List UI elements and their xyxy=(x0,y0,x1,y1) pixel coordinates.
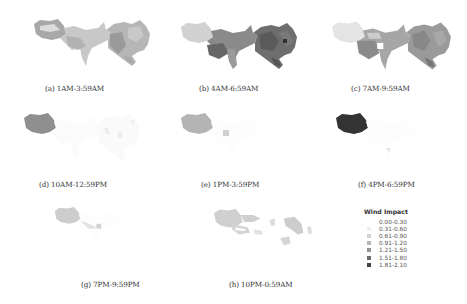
legend-label: 1.21-1.50 xyxy=(379,247,407,253)
caption-h: (h) 10PM-0:59AM xyxy=(229,280,292,289)
caption-g: (g) 7PM-9:59PM xyxy=(81,280,140,289)
caption-c: (c) 7AM-9:59AM xyxy=(351,84,410,93)
map-f xyxy=(330,110,455,166)
legend-item: 1.81-2.10 xyxy=(358,261,458,268)
caption-d: (d) 10AM-12:59PM xyxy=(39,180,107,189)
panel-a: (a) 1AM-3:59AM xyxy=(0,0,155,100)
caption-e: (e) 1PM-3:59PM xyxy=(201,180,259,189)
legend-label: 0.61-0.90 xyxy=(379,233,407,239)
panel-h: (h) 10PM-0:59AM xyxy=(170,200,350,304)
panel-f: (f) 4PM-6:59PM xyxy=(310,100,467,200)
legend-item: 0.00-0.30 xyxy=(358,218,458,225)
legend-item: 0.31-0.60 xyxy=(358,225,458,232)
caption-a: (a) 1AM-3:59AM xyxy=(45,84,104,93)
legend-swatch xyxy=(367,234,371,238)
legend-label: 1.51-1.80 xyxy=(379,255,407,261)
map-a xyxy=(28,16,153,72)
legend-label: 0.00-0.30 xyxy=(379,219,407,225)
legend-swatch xyxy=(367,241,371,245)
panel-d: (d) 10AM-12:59PM xyxy=(0,100,155,200)
map-e xyxy=(175,110,300,166)
legend-item: 0.61-0.90 xyxy=(358,232,458,239)
map-h xyxy=(202,206,327,256)
map-b xyxy=(175,16,300,78)
panel-c: (c) 7AM-9:59AM xyxy=(310,0,467,100)
panel-e: (e) 1PM-3:59PM xyxy=(155,100,310,200)
legend-swatch xyxy=(367,248,371,252)
caption-b: (b) 4AM-6:59AM xyxy=(199,84,258,93)
legend-label: 1.81-2.10 xyxy=(379,262,407,268)
legend-label: 0.91-1.20 xyxy=(379,240,407,246)
map-g xyxy=(50,204,150,250)
caption-f: (f) 4PM-6:59PM xyxy=(358,180,415,189)
map-c xyxy=(326,16,454,78)
legend-swatch xyxy=(367,263,371,267)
legend-swatch xyxy=(367,220,371,224)
legend-swatch xyxy=(367,227,371,231)
legend-item: 0.91-1.20 xyxy=(358,240,458,247)
panel-g: (g) 7PM-9:59PM xyxy=(0,200,180,304)
legend: Wind Impact 0.00-0.30 0.31-0.60 0.61-0.9… xyxy=(358,208,458,268)
legend-item: 1.51-1.80 xyxy=(358,254,458,261)
legend-item: 1.21-1.50 xyxy=(358,247,458,254)
panel-b: (b) 4AM-6:59AM xyxy=(155,0,310,100)
map-d xyxy=(18,110,143,166)
legend-title: Wind Impact xyxy=(364,208,458,215)
legend-label: 0.31-0.60 xyxy=(379,226,407,232)
legend-swatch xyxy=(367,256,371,260)
